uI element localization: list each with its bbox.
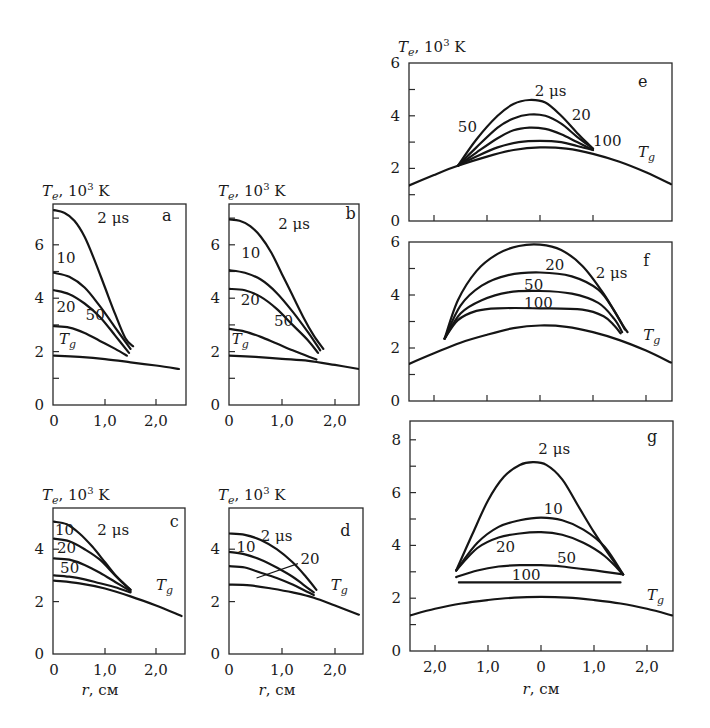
y-axis-title: Te, 103 K bbox=[42, 485, 110, 507]
curve-label: 50 bbox=[524, 276, 543, 294]
panel-letter: d bbox=[340, 521, 350, 540]
panel-e: 02462 μs2050100TgeTe, 103 K bbox=[390, 37, 672, 230]
curve-100-s bbox=[445, 308, 621, 339]
curve-label: 10 bbox=[55, 521, 74, 539]
panel-c: 01,02,00242 μs102050TgcTe, 103 Kr, см bbox=[34, 485, 185, 699]
y-tick-label: 4 bbox=[34, 289, 44, 307]
curve-label: 20 bbox=[57, 539, 76, 557]
curve-label: 2 μs bbox=[97, 521, 129, 539]
curve-label: 20 bbox=[241, 291, 260, 309]
panel-letter: f bbox=[643, 251, 650, 270]
x-tick-label: 0 bbox=[49, 661, 59, 679]
curve-label: 20 bbox=[301, 550, 320, 568]
curve-label: Tg bbox=[647, 586, 664, 607]
curve-label: 20 bbox=[545, 256, 564, 274]
panel-b: 01,02,002462 μs102050TgbTe, 103 K bbox=[210, 181, 359, 430]
y-tick-label: 4 bbox=[390, 286, 400, 304]
y-tick-label: 0 bbox=[34, 645, 44, 663]
y-tick-label: 0 bbox=[391, 642, 401, 660]
y-tick-label: 4 bbox=[210, 289, 220, 307]
y-tick-label: 2 bbox=[34, 593, 44, 611]
curve-label: 2 μs bbox=[97, 209, 129, 227]
curve-label: 10 bbox=[241, 244, 260, 262]
curve-label: 2 μs bbox=[596, 264, 628, 282]
curve-label: 50 bbox=[274, 312, 293, 330]
curve-t-g bbox=[229, 356, 359, 369]
curve-label: Tg bbox=[156, 576, 173, 597]
y-tick-label: 0 bbox=[210, 645, 220, 663]
panel-letter: e bbox=[638, 72, 647, 91]
x-axis-title: r, см bbox=[259, 681, 296, 699]
x-tick-label: 2,0 bbox=[423, 658, 447, 676]
x-tick-label: 1,0 bbox=[93, 661, 117, 679]
plot-frame bbox=[409, 242, 672, 401]
curve-t-g bbox=[410, 597, 672, 616]
y-tick-label: 6 bbox=[34, 236, 44, 254]
y-axis-title: Te, 103 K bbox=[218, 485, 286, 507]
curve-label: 10 bbox=[57, 249, 76, 267]
curve-label: 100 bbox=[593, 132, 622, 150]
panel-g: 2,01,001,02,0024682 μs102050100Tggr, см bbox=[391, 421, 673, 698]
curve-label: 100 bbox=[512, 566, 541, 584]
curve-label: 10 bbox=[236, 538, 255, 556]
y-tick-label: 4 bbox=[34, 540, 44, 558]
panel-letter: b bbox=[346, 204, 356, 223]
curve-t-g bbox=[409, 147, 671, 185]
curve-t-g bbox=[54, 356, 179, 369]
curve-label: 50 bbox=[458, 118, 477, 136]
curve-label: 2 μs bbox=[278, 215, 310, 233]
y-tick-label: 4 bbox=[391, 536, 401, 554]
y-axis-title: Te, 103 K bbox=[42, 181, 110, 203]
y-tick-label: 8 bbox=[391, 431, 401, 449]
y-tick-label: 2 bbox=[390, 159, 400, 177]
y-tick-label: 2 bbox=[210, 593, 220, 611]
curve-label: 20 bbox=[572, 106, 591, 124]
y-tick-label: 0 bbox=[210, 396, 220, 414]
y-tick-label: 0 bbox=[390, 392, 400, 410]
y-axis-title: Te, 103 K bbox=[398, 37, 466, 59]
x-tick-label: 0 bbox=[224, 412, 234, 430]
curve-label: 50 bbox=[557, 549, 576, 567]
x-tick-label: 2,0 bbox=[323, 661, 347, 679]
panel-d: 01,02,00242 μs1020TgdTe, 103 Kr, см bbox=[210, 485, 363, 699]
curve-label: 2 μs bbox=[538, 440, 570, 458]
x-axis-title: r, см bbox=[82, 681, 119, 699]
x-tick-label: 0 bbox=[49, 412, 59, 430]
x-tick-label: 0 bbox=[224, 661, 234, 679]
x-tick-label: 2,0 bbox=[323, 412, 347, 430]
curve-label: 10 bbox=[544, 500, 563, 518]
y-tick-label: 6 bbox=[391, 484, 401, 502]
x-tick-label: 2,0 bbox=[635, 658, 659, 676]
y-tick-label: 2 bbox=[391, 589, 401, 607]
y-tick-label: 4 bbox=[390, 107, 400, 125]
x-tick-label: 1,0 bbox=[93, 412, 117, 430]
panel-letter: c bbox=[170, 512, 179, 531]
x-axis-title: r, см bbox=[523, 680, 560, 698]
x-tick-label: 1,0 bbox=[270, 412, 294, 430]
y-tick-label: 2 bbox=[210, 343, 220, 361]
curve-label: 100 bbox=[524, 294, 553, 312]
curve-2-s bbox=[54, 210, 133, 346]
y-tick-label: 4 bbox=[210, 540, 220, 558]
y-tick-label: 2 bbox=[34, 343, 44, 361]
curve-label: 50 bbox=[86, 306, 105, 324]
curve-label: 2 μs bbox=[535, 82, 567, 100]
x-tick-label: 2,0 bbox=[144, 412, 168, 430]
curve-label: Tg bbox=[638, 143, 655, 164]
x-tick-label: 1,0 bbox=[270, 661, 294, 679]
x-tick-label: 0 bbox=[536, 658, 546, 676]
y-tick-label: 6 bbox=[210, 236, 220, 254]
panel-f: 0246202 μs50100Tgf bbox=[390, 233, 672, 410]
curve-label: 2 μs bbox=[261, 527, 293, 545]
panel-a: 01,02,002462 μs102050TgaTe, 103 K bbox=[34, 181, 186, 430]
x-tick-label: 1,0 bbox=[476, 658, 500, 676]
curve-label: Tg bbox=[331, 576, 348, 597]
panel-letter: g bbox=[647, 427, 657, 446]
y-tick-label: 6 bbox=[390, 233, 400, 251]
panel-letter: a bbox=[162, 206, 172, 225]
x-tick-label: 2,0 bbox=[144, 661, 168, 679]
y-tick-label: 0 bbox=[390, 212, 400, 230]
figure-canvas: 01,02,002462 μs102050TgaTe, 103 K01,02,0… bbox=[0, 0, 710, 728]
y-tick-label: 6 bbox=[390, 54, 400, 72]
y-tick-label: 2 bbox=[390, 339, 400, 357]
